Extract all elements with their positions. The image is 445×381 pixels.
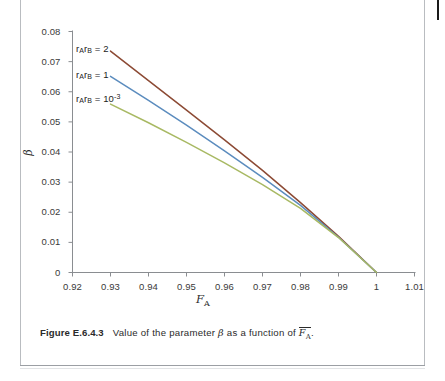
y-tick-label: 0.03 [21, 176, 61, 187]
chart-svg [0, 0, 445, 320]
chart-series [111, 51, 377, 272]
caption-fbar-symbol: FA [299, 327, 311, 341]
x-axis-title: FA [196, 292, 210, 308]
caption-text-end: . [311, 327, 314, 338]
y-tick-label: 0 [21, 267, 61, 278]
page-bottom-shadow [20, 368, 425, 369]
y-tick-label: 0.05 [21, 116, 61, 127]
figure-caption: Figure E.6.4.3Value of the parameter β a… [40, 327, 415, 341]
y-tick-label: 0.08 [21, 26, 61, 37]
caption-fbar-base: F [299, 327, 306, 338]
caption-beta-symbol: β [218, 327, 224, 338]
page-border-bottom [20, 365, 425, 366]
series-label-rarb-1: rArB = 1 [76, 69, 109, 80]
figure-page: 00.010.020.030.040.050.060.070.08 0.920.… [0, 0, 445, 381]
y-axis-title: β [22, 149, 35, 155]
x-tick-label: 1.01 [393, 281, 437, 292]
series-label-value: = 10 [95, 93, 114, 104]
x-axis-title-base: F [196, 292, 204, 306]
series-label-exponent: -3 [114, 93, 120, 100]
series-label-value: = 2 [95, 43, 109, 54]
series-label-sub-b: B [87, 73, 92, 80]
caption-label: Figure E.6.4.3 [40, 327, 104, 338]
caption-text-middle: as a function of [227, 327, 296, 338]
caption-text: Value of the parameter β as a function o… [113, 327, 314, 338]
series-label-value: = 1 [95, 69, 109, 80]
series-label-rarb-1e-3: rArB = 10-3 [76, 93, 120, 104]
series-label-sub-b: B [87, 47, 92, 54]
y-tick-label: 0.07 [21, 56, 61, 67]
y-tick-label: 0.02 [21, 206, 61, 217]
series-label-sub-b: B [87, 97, 92, 104]
chart-plot-area: 00.010.020.030.040.050.060.070.08 0.920.… [0, 0, 445, 320]
caption-text-before: Value of the parameter [113, 327, 215, 338]
y-tick-label: 0.06 [21, 86, 61, 97]
x-axis-title-sub: A [204, 299, 210, 308]
y-tick-label: 0.01 [21, 236, 61, 247]
series-label-rarb-2: rArB = 2 [76, 43, 109, 54]
